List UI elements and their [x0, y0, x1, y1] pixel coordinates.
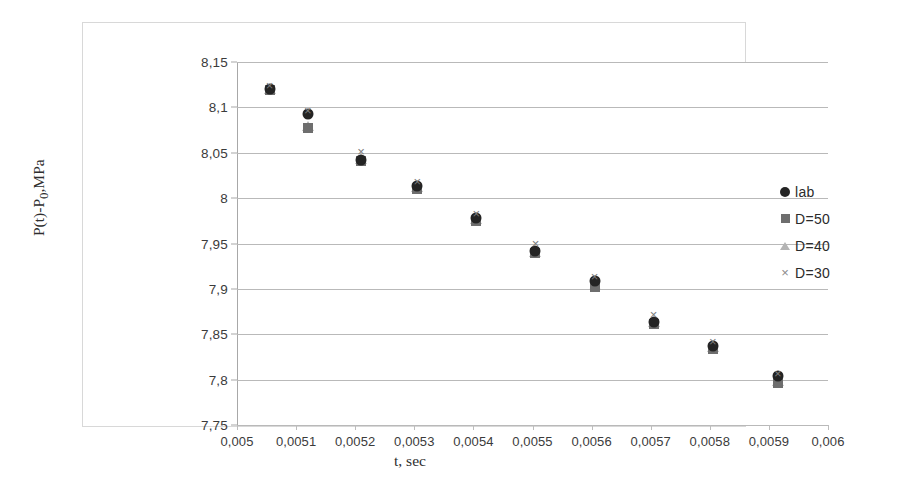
plot-area: 7,757,87,857,97,9588,058,18,15 0,0050,00… [237, 62, 828, 425]
x-axis-tick-mark [710, 425, 711, 430]
y-axis-tick-label: 7,75 [201, 418, 228, 433]
legend-marker-icon [775, 187, 795, 197]
legend-symbol [780, 242, 790, 250]
legend-label: D=50 [795, 211, 830, 227]
gridline-horizontal [237, 153, 828, 154]
data-point-d30 [589, 271, 601, 283]
x-axis-tick-mark [296, 425, 297, 430]
x-axis-tick-mark [769, 425, 770, 430]
data-point-d30 [529, 238, 541, 250]
x-axis-title-text: t, sec [394, 452, 426, 469]
x-axis-tick-mark [828, 425, 829, 430]
gridline-horizontal [237, 198, 828, 199]
legend-label: lab [795, 184, 815, 200]
legend-item-lab[interactable]: lab [775, 178, 895, 205]
x-axis-tick-mark [533, 425, 534, 430]
y-axis-tick-label: 8,15 [201, 55, 228, 70]
x-axis-tick-label: 0,0052 [335, 434, 375, 449]
legend-label: D=30 [795, 265, 830, 281]
x-axis-tick-label: 0,0058 [690, 434, 730, 449]
y-axis-tick-label: 8,1 [209, 100, 228, 115]
x-axis-title: t, sec [0, 452, 906, 470]
x-axis-tick-mark [473, 425, 474, 430]
data-point-d30 [355, 146, 367, 158]
y-axis-tick-mark [231, 62, 237, 63]
legend-marker-icon [775, 242, 795, 250]
data-point-d30 [648, 309, 660, 321]
x-axis-tick-mark [414, 425, 415, 430]
x-axis-tick-label: 0,0057 [631, 434, 671, 449]
legend-symbol: × [781, 266, 789, 279]
y-axis-tick-label: 7,8 [209, 372, 228, 387]
legend-item-d30[interactable]: ×D=30 [775, 259, 895, 286]
legend-marker-icon: × [775, 266, 795, 279]
chart-frame: 7,757,87,857,97,9588,058,18,15 0,0050,00… [82, 22, 746, 427]
y-axis-tick-mark [231, 107, 237, 108]
gridline-horizontal [237, 380, 828, 381]
data-point-d30 [707, 336, 719, 348]
gridline-horizontal [237, 62, 828, 63]
data-point-d30 [411, 176, 423, 188]
data-point-d30 [470, 208, 482, 220]
legend-symbol [781, 214, 790, 223]
data-point-d30 [772, 368, 784, 380]
y-axis-tick-label: 7,95 [201, 236, 228, 251]
data-point-d30 [302, 105, 314, 117]
y-axis-tick-label: 7,9 [209, 281, 228, 296]
chart-legend: labD=50D=40×D=30 [775, 178, 895, 286]
legend-item-d50[interactable]: D=50 [775, 205, 895, 232]
y-axis-tick-label: 8,05 [201, 145, 228, 160]
legend-marker-icon [775, 214, 795, 223]
x-axis-tick-mark [237, 425, 238, 430]
y-axis-tick-mark [231, 243, 237, 244]
x-axis-tick-label: 0,0051 [276, 434, 316, 449]
legend-item-d40[interactable]: D=40 [775, 232, 895, 259]
y-axis-tick-mark [231, 379, 237, 380]
y-axis-tick-label: 8 [220, 191, 228, 206]
x-axis-tick-label: 0,0059 [749, 434, 789, 449]
gridline-horizontal [237, 289, 828, 290]
y-axis-tick-mark [231, 198, 237, 199]
data-point-d30 [264, 80, 276, 92]
x-axis-tick-label: 0,0056 [571, 434, 611, 449]
legend-label: D=40 [795, 238, 830, 254]
x-axis-tick-mark [651, 425, 652, 430]
x-axis-tick-label: 0,0055 [512, 434, 552, 449]
x-axis-tick-label: 0,005 [220, 434, 253, 449]
y-axis-tick-label: 7,85 [201, 327, 228, 342]
y-axis-tick-mark [231, 334, 237, 335]
x-axis-tick-mark [592, 425, 593, 430]
x-axis-tick-label: 0,006 [811, 434, 844, 449]
data-point-d50 [303, 123, 313, 133]
y-axis-title: P(t)-P0,MPa [30, 159, 52, 236]
y-axis-tick-mark [231, 288, 237, 289]
y-axis-subscript: 0 [36, 193, 51, 199]
y-axis-tick-mark [231, 152, 237, 153]
x-axis-tick-label: 0,0054 [453, 434, 493, 449]
gridline-horizontal [237, 334, 828, 335]
x-axis-tick-label: 0,0053 [394, 434, 434, 449]
x-axis-tick-mark [355, 425, 356, 430]
legend-symbol [780, 187, 790, 197]
y-axis-title-text: P(t)-P0,MPa [30, 159, 47, 236]
gridline-horizontal [237, 107, 828, 108]
